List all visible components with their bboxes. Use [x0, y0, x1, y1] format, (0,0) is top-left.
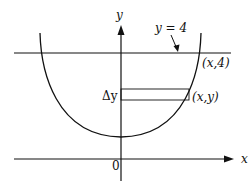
point-top-label: (x,4) [202, 57, 230, 69]
y-axis-label: y [116, 9, 123, 21]
x-axis-arrow-icon [224, 156, 234, 163]
strip-label: Δy [102, 90, 117, 102]
point-label: (x,y) [192, 91, 219, 103]
label-pointer-arrow-icon [174, 45, 180, 53]
y-axis-arrow-icon [118, 25, 125, 35]
line-label: y = 4 [155, 22, 187, 34]
origin-label: 0 [112, 160, 120, 172]
strip-rectangle [121, 89, 189, 100]
x-axis-label: x [241, 153, 248, 165]
